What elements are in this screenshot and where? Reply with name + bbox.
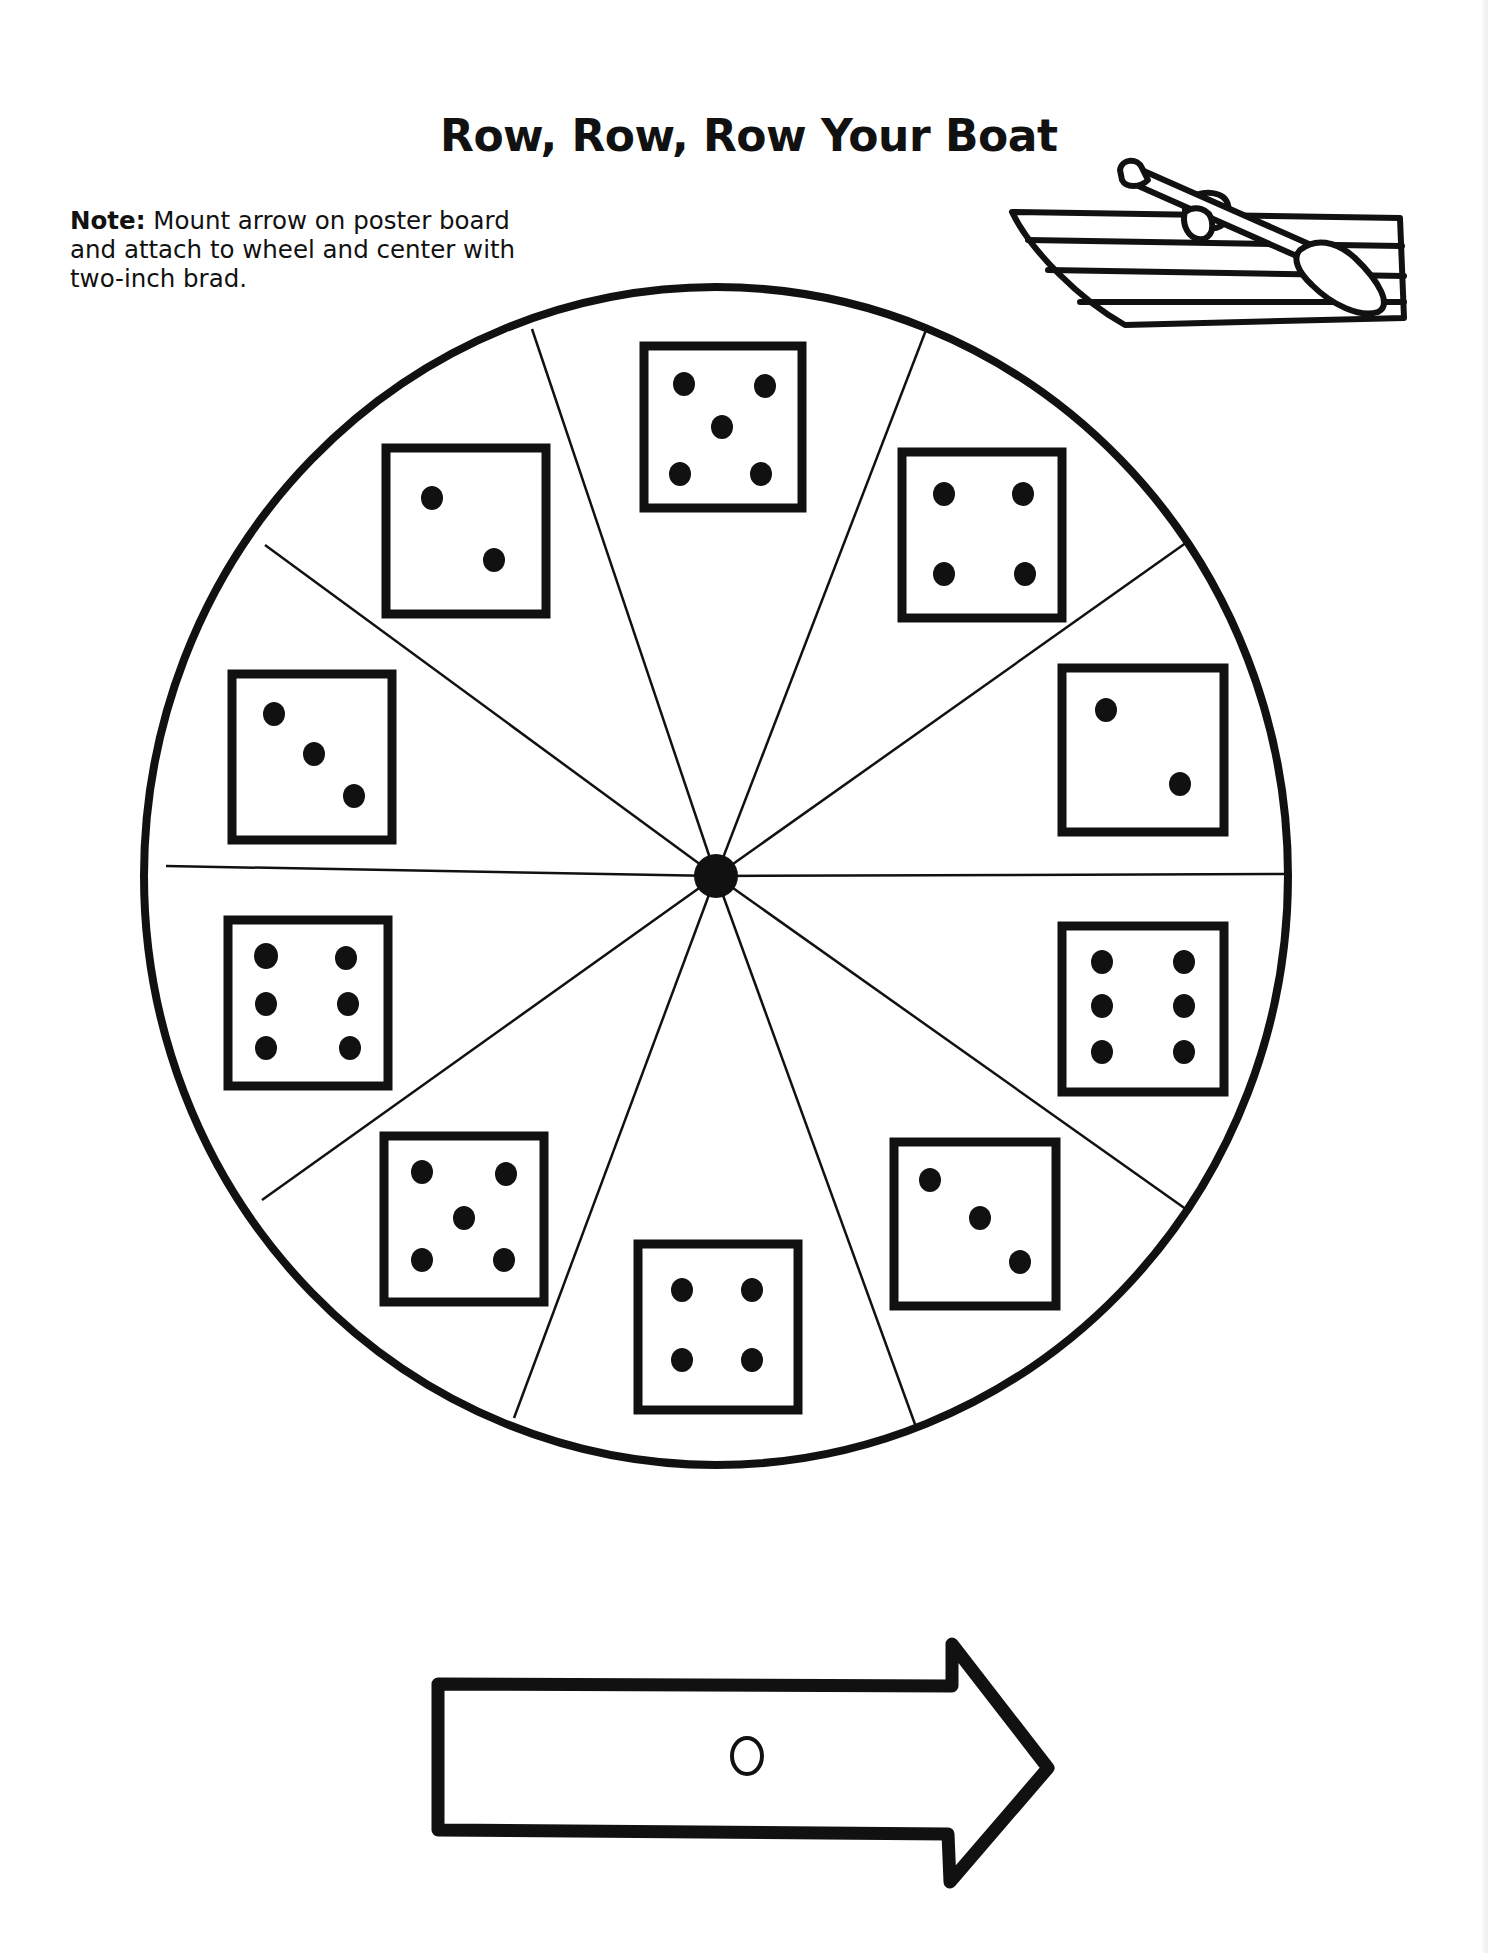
- center-hub: [694, 854, 738, 898]
- brad-hole: [732, 1738, 762, 1774]
- die-two-right: [1062, 668, 1224, 832]
- page-edge: [1482, 0, 1488, 1953]
- spinner-arrow[interactable]: [438, 1644, 1048, 1882]
- die-two-upper-left: [386, 448, 546, 614]
- die-four-upper-right: [902, 452, 1062, 618]
- die-four-bottom: [638, 1244, 798, 1410]
- die-five-top: [644, 346, 802, 508]
- die-three-lower-right: [894, 1142, 1056, 1306]
- rowboat-icon: [1012, 161, 1404, 325]
- spinner-wheel[interactable]: [144, 287, 1288, 1465]
- die-six-left: [228, 920, 388, 1086]
- die-three-left: [232, 674, 392, 840]
- die-five-lower-left: [384, 1136, 544, 1302]
- die-six-right: [1062, 926, 1224, 1092]
